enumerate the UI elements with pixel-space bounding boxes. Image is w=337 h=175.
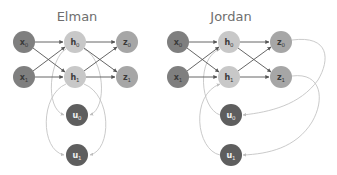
- node-h0: h0: [64, 31, 86, 53]
- node-z1: z1: [270, 66, 292, 88]
- output-feedback-edges: [243, 39, 325, 155]
- diagram-title: Elman: [57, 9, 98, 24]
- node-u1: u1: [66, 144, 88, 166]
- node-u0: u0: [66, 104, 88, 126]
- node-z1: z1: [116, 66, 138, 88]
- elman-diagram: Elman x0 x1 h0: [13, 9, 138, 166]
- diagram-title: Jordan: [209, 9, 251, 24]
- node-u0: u0: [220, 104, 242, 126]
- recurrent-network-diagram: Elman x0 x1 h0: [0, 0, 337, 175]
- node-x0: x0: [13, 31, 35, 53]
- jordan-diagram: Jordan x0 x1: [167, 9, 325, 166]
- node-x1: x1: [13, 66, 35, 88]
- node-h0: h0: [218, 31, 240, 53]
- node-z0: z0: [270, 31, 292, 53]
- node-h1: h1: [218, 66, 240, 88]
- node-z0: z0: [116, 31, 138, 53]
- node-u1: u1: [220, 144, 242, 166]
- node-x0: x0: [167, 31, 189, 53]
- node-h1: h1: [64, 66, 86, 88]
- node-x1: x1: [167, 66, 189, 88]
